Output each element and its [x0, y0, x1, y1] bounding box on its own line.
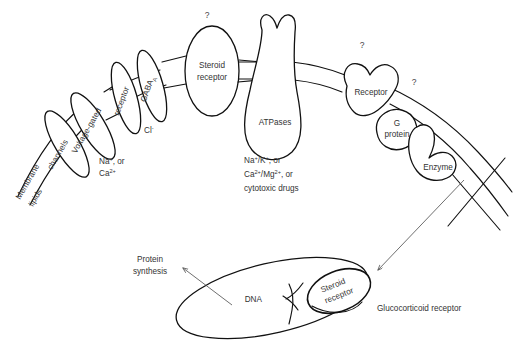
atpase-caption-line3: cytotoxic drugs [244, 184, 299, 193]
g-protein-label-line1: G [394, 119, 400, 128]
atpase-caption-line1: Na+/K+, or [244, 155, 281, 165]
gaba-a-receptor: receptor GABAA [105, 47, 173, 136]
dna-label: DNA [245, 295, 263, 304]
protein-synthesis-line1: Protein [137, 255, 163, 264]
gaba-steroid-connector-bottom [164, 84, 186, 88]
channel-ion-line1: Na+, or [99, 156, 125, 166]
atpases-label: ATPases [259, 118, 292, 127]
membrane-lipids-label-2: lipids [27, 187, 44, 208]
steroid-receptor-question-mark: ? [205, 10, 210, 20]
g-protein-label-line2: protein [384, 130, 409, 139]
membrane-lipids-group: Membrane lipids Membrane lipids [14, 140, 56, 208]
glucocorticoid-receptor-label: Glucocorticoid receptor [377, 304, 461, 313]
protein-synthesis-line2: synthesis [133, 267, 167, 276]
atpases-shape [245, 15, 301, 160]
membrane-cross-line-2 [448, 158, 505, 226]
enzyme-protein: Enzyme ? [409, 77, 456, 180]
gaba-ion-label: Cl- [144, 125, 154, 135]
enzyme-question-mark: ? [412, 77, 417, 87]
steroid-receptor-label-line1: Steroid [199, 61, 225, 70]
steroid-receptor-label-line2: receptor [197, 73, 227, 82]
figure-root: Membrane lipids Membrane lipids channels… [0, 0, 519, 356]
gaba-steroid-connector-top [162, 56, 186, 62]
steroid-receptor-membrane: Steroid receptor ? [185, 10, 239, 116]
membrane-inner-line-4 [294, 80, 342, 92]
atpase-caption: Na+/K+, or Ca2+/Mg2+, or cytotoxic drugs [244, 155, 299, 193]
channel-ion-caption: Na+, or Ca2+ [99, 156, 125, 178]
receptor-label: Receptor [354, 88, 387, 97]
cell-membrane-diagram: Membrane lipids Membrane lipids channels… [0, 0, 519, 356]
receptor-question-mark: ? [360, 40, 365, 50]
protein-synthesis-label: Protein synthesis [133, 255, 167, 276]
enzyme-label: Enzyme [423, 163, 453, 172]
enzyme-to-nucleus-arrow [378, 180, 464, 270]
atpases-protein: ATPases [245, 15, 301, 160]
nucleus: DNA Steroid receptor [169, 242, 377, 354]
membrane-outer-line-4 [292, 62, 345, 75]
steroid-receptor-ellipse [185, 26, 239, 116]
enzyme-shape [409, 125, 456, 181]
atpase-caption-line2: Ca2+/Mg2+, or [244, 169, 293, 179]
channel-ion-line2: Ca2+ [99, 168, 116, 178]
